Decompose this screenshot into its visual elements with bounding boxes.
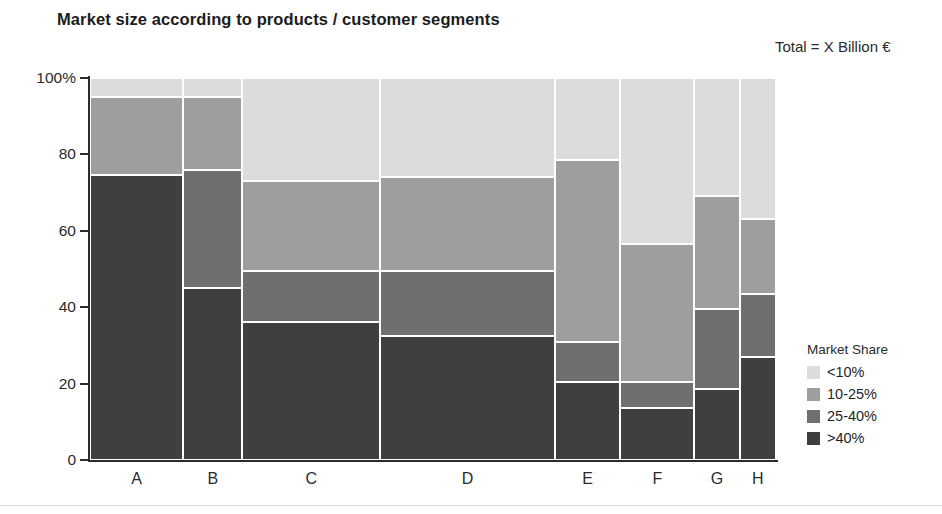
mosaic-column-a[interactable] [90, 78, 183, 460]
segment-e-10-25[interactable] [555, 160, 620, 341]
segment-c-25-40[interactable] [242, 271, 380, 323]
y-axis-tick-label: 40 [59, 298, 76, 316]
x-axis-label-d: D [462, 470, 474, 488]
mosaic-column-f[interactable] [620, 78, 694, 460]
x-axis-label-b: B [207, 470, 218, 488]
marimekko-chart: Market size according to products / cust… [0, 0, 942, 514]
legend-title: Market Share [807, 342, 936, 357]
legend-item-label: 10-25% [827, 386, 877, 402]
plot-area [90, 78, 776, 460]
legend-swatch-icon [806, 365, 821, 380]
segment-f-10[interactable] [620, 78, 694, 244]
legend-swatch-icon [806, 387, 821, 402]
mosaic-column-e[interactable] [555, 78, 620, 460]
segment-g-10[interactable] [694, 78, 739, 196]
segment-d-10[interactable] [380, 78, 555, 177]
x-axis-label-a: A [131, 470, 142, 488]
y-axis-tick-label: 20 [59, 375, 76, 393]
x-axis-label-f: F [652, 470, 662, 488]
segment-f-40[interactable] [620, 408, 694, 460]
x-axis-label-g: G [711, 470, 723, 488]
segment-g-40[interactable] [694, 389, 739, 460]
segment-h-40[interactable] [740, 357, 776, 460]
y-axis-tick [80, 77, 88, 79]
x-axis-line [88, 460, 778, 462]
segment-h-10[interactable] [740, 78, 776, 219]
y-axis-tick [80, 153, 88, 155]
segment-h-25-40[interactable] [740, 294, 776, 357]
mosaic-column-d[interactable] [380, 78, 555, 460]
legend-item-label: <10% [827, 364, 865, 380]
segment-a-40[interactable] [90, 175, 183, 460]
legend-item[interactable]: 10-25% [806, 386, 936, 402]
segment-c-10[interactable] [242, 78, 380, 181]
segment-c-10-25[interactable] [242, 181, 380, 271]
legend-item[interactable]: <10% [806, 364, 936, 380]
x-axis-label-h: H [752, 470, 764, 488]
x-axis-label-c: C [305, 470, 317, 488]
legend-item[interactable]: 25-40% [806, 408, 936, 424]
legend: Market Share <10%10-25%25-40%>40% [806, 342, 936, 452]
legend-item-label: 25-40% [827, 408, 877, 424]
x-axis-label-e: E [582, 470, 593, 488]
y-axis-tick [80, 306, 88, 308]
y-axis-tick [80, 230, 88, 232]
segment-a-10-25[interactable] [90, 97, 183, 175]
segment-d-25-40[interactable] [380, 271, 555, 336]
segment-a-10[interactable] [90, 78, 183, 97]
legend-swatch-icon [806, 431, 821, 446]
page-title: Market size according to products / cust… [57, 10, 500, 29]
y-axis-tick-label: 60 [59, 222, 76, 240]
y-axis-tick [80, 459, 88, 461]
y-axis-tick-label: 100% [36, 69, 76, 87]
bottom-divider [0, 505, 942, 506]
segment-d-40[interactable] [380, 336, 555, 460]
segment-e-10[interactable] [555, 78, 620, 160]
segment-b-40[interactable] [183, 288, 242, 460]
total-annotation: Total = X Billion € [775, 38, 890, 55]
y-axis-tick [80, 383, 88, 385]
segment-e-25-40[interactable] [555, 342, 620, 382]
segment-g-10-25[interactable] [694, 196, 739, 309]
legend-item-label: >40% [827, 430, 865, 446]
mosaic-column-c[interactable] [242, 78, 380, 460]
legend-swatch-icon [806, 409, 821, 424]
y-axis-tick-label: 80 [59, 145, 76, 163]
segment-b-10[interactable] [183, 78, 242, 97]
segment-b-25-40[interactable] [183, 170, 242, 288]
segment-g-25-40[interactable] [694, 309, 739, 389]
mosaic-column-b[interactable] [183, 78, 242, 460]
legend-item[interactable]: >40% [806, 430, 936, 446]
segment-h-10-25[interactable] [740, 219, 776, 293]
segment-f-25-40[interactable] [620, 382, 694, 409]
segment-d-10-25[interactable] [380, 177, 555, 271]
segment-c-40[interactable] [242, 322, 380, 460]
mosaic-column-h[interactable] [740, 78, 776, 460]
segment-f-10-25[interactable] [620, 244, 694, 382]
segment-b-10-25[interactable] [183, 97, 242, 170]
y-axis-tick-labels: 100%806040200 [0, 0, 76, 514]
mosaic-column-g[interactable] [694, 78, 739, 460]
segment-e-40[interactable] [555, 382, 620, 460]
y-axis-tick-label: 0 [67, 451, 76, 469]
